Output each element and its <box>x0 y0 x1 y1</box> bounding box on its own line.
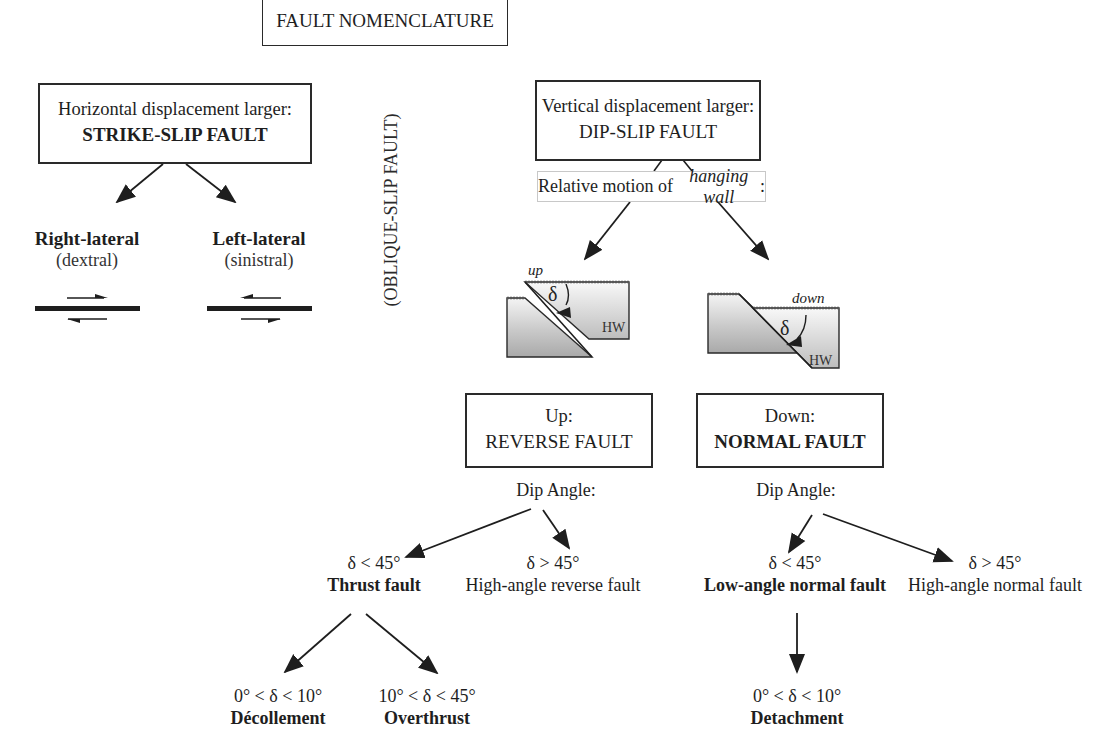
hanging-wall-arrows <box>585 202 768 259</box>
thrust-range: δ < 45° <box>348 553 401 575</box>
title-box: FAULT NOMENCLATURE <box>262 0 508 46</box>
reverse-fault-box: Up: REVERSE FAULT <box>465 393 653 468</box>
normal-block-diagram-icon: δ HW down <box>708 290 839 368</box>
reverse-block-diagram-icon: δ HW up <box>507 262 629 357</box>
dip-slip-condition: Vertical displacement larger: <box>542 94 754 118</box>
strike-slip-arrows <box>117 164 235 202</box>
low-angle-normal-label: Low-angle normal fault <box>704 575 886 597</box>
decollement-range: 0° < δ < 10° <box>234 686 322 708</box>
normal-condition: Down: <box>765 404 815 428</box>
overthrust-label: Overthrust <box>384 708 470 730</box>
thrust-children-arrows <box>285 614 437 673</box>
low-angle-normal-range: δ < 45° <box>769 553 822 575</box>
page-title: FAULT NOMENCLATURE <box>276 10 494 32</box>
normal-name: NORMAL FAULT <box>714 428 866 457</box>
strike-slip-name: STRIKE-SLIP FAULT <box>82 121 267 150</box>
normal-fault-box: Down: NORMAL FAULT <box>696 393 884 468</box>
sinistral-label: (sinistral) <box>225 250 294 272</box>
right-lateral-symbol-icon <box>35 294 140 323</box>
right-lateral-label: Right-lateral <box>35 228 139 251</box>
svg-text:HW: HW <box>602 320 626 335</box>
strike-slip-condition: Horizontal displacement larger: <box>58 97 292 121</box>
left-lateral-label: Left-lateral <box>213 228 306 251</box>
normal-dip-label: Dip Angle: <box>756 480 836 502</box>
dip-slip-name: DIP-SLIP FAULT <box>579 118 717 147</box>
reverse-dip-label: Dip Angle: <box>516 480 596 502</box>
reverse-name: REVERSE FAULT <box>485 428 632 457</box>
detachment-range: 0° < δ < 10° <box>753 686 841 708</box>
strike-slip-box: Horizontal displacement larger: STRIKE-S… <box>38 83 312 164</box>
decollement-label: Décollement <box>231 708 326 730</box>
svg-text:up: up <box>528 262 544 278</box>
svg-text:HW: HW <box>809 353 833 368</box>
detachment-label: Detachment <box>751 708 844 730</box>
hanging-wall-motion-box: Relative motion of hanging wall : <box>537 171 766 202</box>
high-angle-normal-label: High-angle normal fault <box>908 575 1082 597</box>
motion-label-suffix: : <box>760 176 765 197</box>
high-angle-reverse-range: δ > 45° <box>527 553 580 575</box>
reverse-condition: Up: <box>545 404 573 428</box>
overthrust-range: 10° < δ < 45° <box>378 686 475 708</box>
high-angle-normal-range: δ > 45° <box>969 553 1022 575</box>
oblique-slip-label: (OBLIQUE-SLIP FAULT) <box>381 114 402 307</box>
thrust-fault-label: Thrust fault <box>327 575 421 597</box>
motion-label-italic: hanging wall <box>677 166 760 208</box>
svg-text:δ: δ <box>548 283 557 305</box>
svg-text:down: down <box>792 290 825 306</box>
motion-label-prefix: Relative motion of <box>538 176 677 197</box>
dextral-label: (dextral) <box>56 250 118 272</box>
high-angle-reverse-label: High-angle reverse fault <box>466 575 641 597</box>
svg-text:δ: δ <box>780 317 789 339</box>
dip-slip-box: Vertical displacement larger: DIP-SLIP F… <box>535 80 761 161</box>
reverse-dip-arrows <box>406 509 569 557</box>
left-lateral-symbol-icon <box>207 294 312 323</box>
